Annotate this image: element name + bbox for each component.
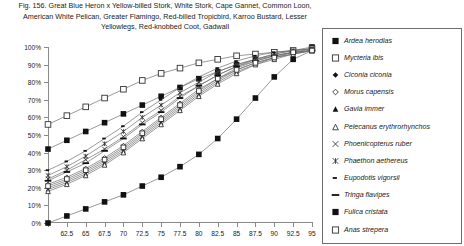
open-square-icon [329, 224, 342, 236]
legend-item-label: Eupodotis vigorsii [344, 174, 400, 182]
x-tick-mark [312, 222, 313, 227]
y-tick-label: 0% [0, 220, 41, 227]
filled-triangle-icon [329, 103, 342, 115]
x-tick-label: 70 [120, 230, 127, 237]
x-tick-label: 90 [271, 230, 278, 237]
x-tick-label: 92.5 [287, 230, 300, 237]
legend-item-label: Phaethon aethereus [344, 157, 408, 165]
long-dash-icon [329, 189, 342, 201]
legend-box: Ardea herodiasMycteria ibisCiconia cicon… [322, 28, 462, 244]
y-tick-label: 20% [0, 184, 41, 191]
y-tick-label: 10% [0, 202, 41, 209]
legend-item[interactable]: Fulica cristata [323, 204, 461, 221]
data-series [45, 48, 315, 226]
legend-item[interactable]: Phoenicopterus ruber [323, 135, 461, 152]
star-cross-icon [329, 155, 342, 167]
legend-item[interactable]: Eupodotis vigorsii [323, 170, 461, 187]
caption-line-2: American White Pelican, Greater Flamingo… [0, 12, 330, 23]
legend-item[interactable]: Gavia immer [323, 101, 461, 118]
legend-item[interactable]: Anas strepera [323, 221, 461, 238]
y-tick-label: 80% [0, 79, 41, 86]
legend-item-label: Tringa flavipes [344, 191, 390, 199]
figure-root: Fig. 156. Great Blue Heron x Yellow-bill… [0, 0, 464, 246]
x-tick-label: 85 [233, 230, 240, 237]
legend-item[interactable]: Mycteria ibis [323, 49, 461, 66]
legend-item[interactable]: Phaethon aethereus [323, 152, 461, 169]
y-tick-label: 60% [0, 114, 41, 121]
legend-item[interactable]: Tringa flavipes [323, 187, 461, 204]
x-tick-label: 75 [157, 230, 164, 237]
open-diamond-icon [329, 86, 342, 98]
filled-diamond-icon [329, 69, 342, 81]
legend-item-label: Ciconia ciconia [344, 71, 392, 79]
legend-item[interactable]: Morus capensis [323, 84, 461, 101]
x-tick-label: 77.5 [174, 230, 187, 237]
caption-line-1: Fig. 156. Great Blue Heron x Yellow-bill… [0, 1, 330, 12]
legend-item-label: Fulica cristata [344, 208, 388, 216]
short-dash-icon [329, 172, 342, 184]
legend-item-label: Morus capensis [344, 88, 394, 96]
y-tick-label: 100% [0, 44, 41, 51]
legend-item-label: Gavia immer [344, 105, 384, 113]
open-triangle-icon [329, 121, 342, 133]
legend-item[interactable]: Pelecanus erythrorhynchos [323, 118, 461, 135]
x-tick-label: 65 [82, 230, 89, 237]
y-tick-label: 40% [0, 149, 41, 156]
filled-square-icon [329, 206, 342, 218]
legend-item-label: Mycteria ibis [344, 54, 383, 62]
filled-square-icon [329, 35, 342, 47]
x-cross-icon [329, 138, 342, 150]
y-tick-label: 50% [0, 132, 41, 139]
figure-caption: Fig. 156. Great Blue Heron x Yellow-bill… [0, 1, 330, 33]
caption-line-3: Yellowlegs, Red-knobbed Coot, Gadwall [0, 22, 330, 33]
legend-item-label: Phoenicopterus ruber [344, 140, 412, 148]
legend-item-label: Ardea herodias [344, 37, 392, 45]
open-square-icon [329, 52, 342, 64]
legend-item[interactable]: Ciconia ciconia [323, 66, 461, 83]
x-tick-label: 95 [308, 230, 315, 237]
series-canvas [48, 47, 312, 223]
x-tick-label: 80 [195, 230, 202, 237]
legend-item-label: Anas strepera [344, 226, 388, 234]
legend-item-label: Pelecanus erythrorhynchos [344, 123, 430, 131]
plot-area [48, 47, 312, 222]
x-tick-label: 67.5 [98, 230, 111, 237]
x-tick-label: 87.5 [249, 230, 262, 237]
y-tick-label: 70% [0, 96, 41, 103]
y-tick-label: 90% [0, 61, 41, 68]
x-tick-label: 72.5 [136, 230, 149, 237]
y-tick-label: 30% [0, 167, 41, 174]
legend-item[interactable]: Ardea herodias [323, 32, 461, 49]
x-tick-label: 82.5 [211, 230, 224, 237]
x-tick-label: 62.5 [60, 230, 73, 237]
